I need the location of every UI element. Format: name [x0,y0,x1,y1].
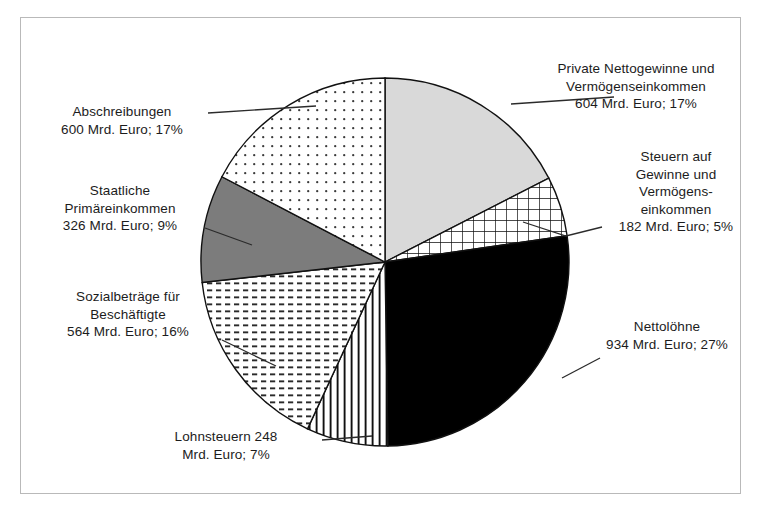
slice-label-lohnsteuern: Lohnsteuern 248 Mrd. Euro; 7% [128,428,324,463]
slice-label-nettoloehne: Nettolöhne 934 Mrd. Euro; 27% [588,318,746,353]
leader-line-nettoloehne [562,358,600,378]
pie-slice-nettoloehne[interactable] [385,236,569,446]
slice-label-staatliche-primaereinkommen: Staatliche Primäreinkommen 326 Mrd. Euro… [22,182,218,235]
slice-label-steuern-gewinne: Steuern auf Gewinne und Vermögens- einko… [600,148,752,236]
pie-chart-figure: Private Nettogewinne und Vermögenseinkom… [0,0,761,508]
slice-label-abschreibungen: Abschreibungen 600 Mrd. Euro; 17% [24,103,220,138]
slice-label-sozialbetraege: Sozialbeträge für Beschäftigte 564 Mrd. … [30,288,226,341]
slice-label-private-nettogewinne: Private Nettogewinne und Vermögenseinkom… [530,60,742,113]
